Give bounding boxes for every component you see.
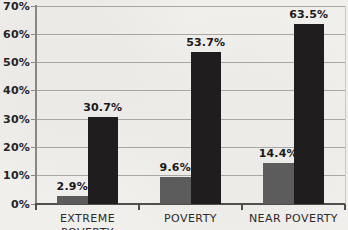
bar-value-label: 63.5% (277, 8, 341, 22)
gray-series-bar (160, 177, 191, 204)
black-series-bar (294, 24, 325, 204)
bar-value-label: 53.7% (174, 36, 238, 50)
x-axis-tick (344, 205, 346, 210)
black-series-bar (88, 117, 119, 204)
x-axis-tick (35, 205, 37, 210)
gridline-70 (37, 6, 345, 7)
y-axis-tick-label: 50% (0, 56, 30, 69)
gray-series-bar (263, 163, 294, 204)
y-axis-tick-label: 40% (0, 84, 30, 97)
y-axis-tick-label: 60% (0, 28, 30, 41)
bar-value-label: 30.7% (71, 101, 135, 115)
y-axis-tick-label: 10% (0, 169, 30, 182)
y-axis-tick-label: 20% (0, 141, 30, 154)
y-axis-line (35, 5, 37, 205)
gray-series-bar (57, 196, 88, 204)
category-label: POVERTY (139, 212, 242, 226)
category-label: NEAR POVERTY (242, 212, 345, 226)
y-axis-tick-label: 0% (0, 198, 30, 211)
y-axis-tick-label: 70% (0, 0, 30, 13)
poverty-rates-bar-chart: 0%10%20%30%40%50%60%70%2.9%30.7%EXTREME … (0, 0, 348, 230)
black-series-bar (191, 52, 222, 204)
category-label: EXTREME POVERTY (36, 212, 139, 230)
y-axis-tick-label: 30% (0, 113, 30, 126)
x-axis-tick (241, 205, 243, 210)
plot-right-border (345, 6, 346, 204)
x-axis-tick (138, 205, 140, 210)
